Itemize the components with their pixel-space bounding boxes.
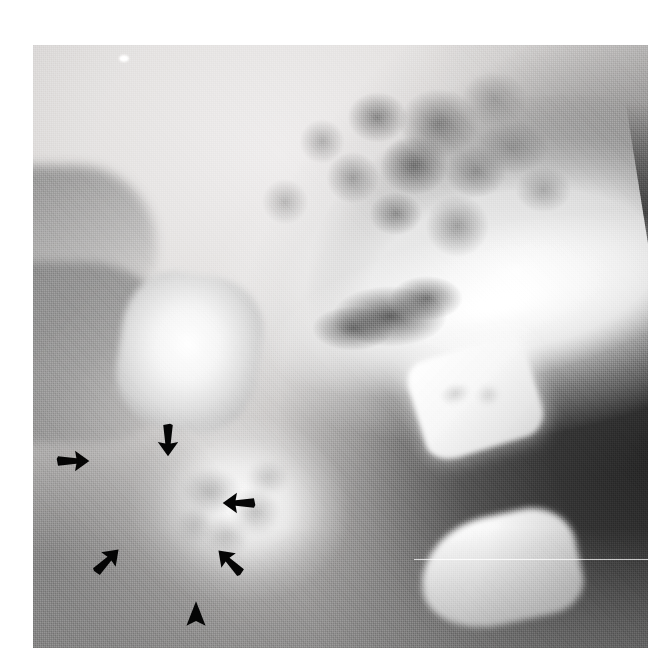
figure-root xyxy=(0,0,666,667)
arrowhead-glyph xyxy=(186,601,205,626)
arrow-glyph xyxy=(158,424,178,457)
arrowhead-bottom-marker xyxy=(181,600,211,630)
arrow-glyph xyxy=(57,451,90,471)
arrow-left-marker xyxy=(56,444,90,478)
arrow-top-marker xyxy=(151,423,185,457)
arrow-right-mid-marker xyxy=(222,486,256,520)
radiograph-plate xyxy=(33,45,648,648)
arrow-glyph xyxy=(223,493,256,513)
